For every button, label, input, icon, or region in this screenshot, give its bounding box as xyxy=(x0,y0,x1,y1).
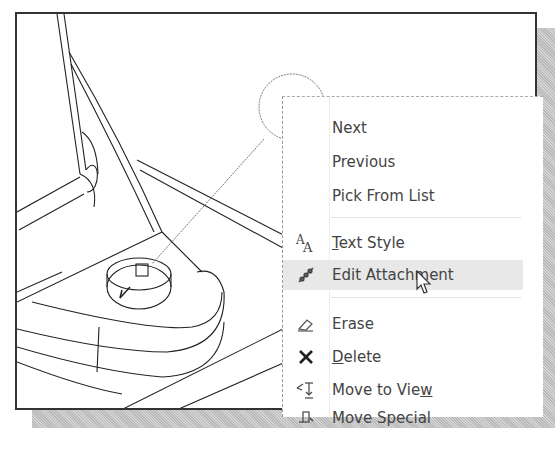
move-special-icon xyxy=(283,403,329,433)
svg-text:A: A xyxy=(302,240,313,253)
blank-icon xyxy=(283,181,329,211)
menu-separator xyxy=(331,217,521,218)
menu-item-erase[interactable]: Erase xyxy=(283,309,523,339)
delete-x-icon xyxy=(283,342,329,372)
menu-item-edit-attachment[interactable]: Edit Attachment xyxy=(283,260,523,290)
mouse-cursor-icon xyxy=(416,270,434,296)
context-menu: Next Previous Pick From List AA Text Sty… xyxy=(282,96,543,417)
menu-separator xyxy=(331,297,521,298)
blank-icon xyxy=(283,113,329,143)
text-style-icon: AA xyxy=(283,228,329,258)
mnemonic: w xyxy=(420,381,432,399)
menu-item-move-special[interactable]: Move Special xyxy=(283,403,523,433)
menu-item-text-style[interactable]: AA Text Style xyxy=(283,228,523,258)
move-to-view-icon xyxy=(283,375,329,405)
menu-item-move-to-view[interactable]: Move to View xyxy=(283,375,523,405)
eraser-icon xyxy=(283,309,329,339)
mnemonic: D xyxy=(332,348,344,366)
blank-icon xyxy=(283,147,329,177)
menu-item-next[interactable]: Next xyxy=(283,113,523,143)
menu-item-pick-from-list[interactable]: Pick From List xyxy=(283,181,523,211)
mnemonic: T xyxy=(332,234,339,252)
menu-item-previous[interactable]: Previous xyxy=(283,147,523,177)
menu-item-delete[interactable]: Delete xyxy=(283,342,523,372)
edit-attachment-icon xyxy=(283,260,329,290)
